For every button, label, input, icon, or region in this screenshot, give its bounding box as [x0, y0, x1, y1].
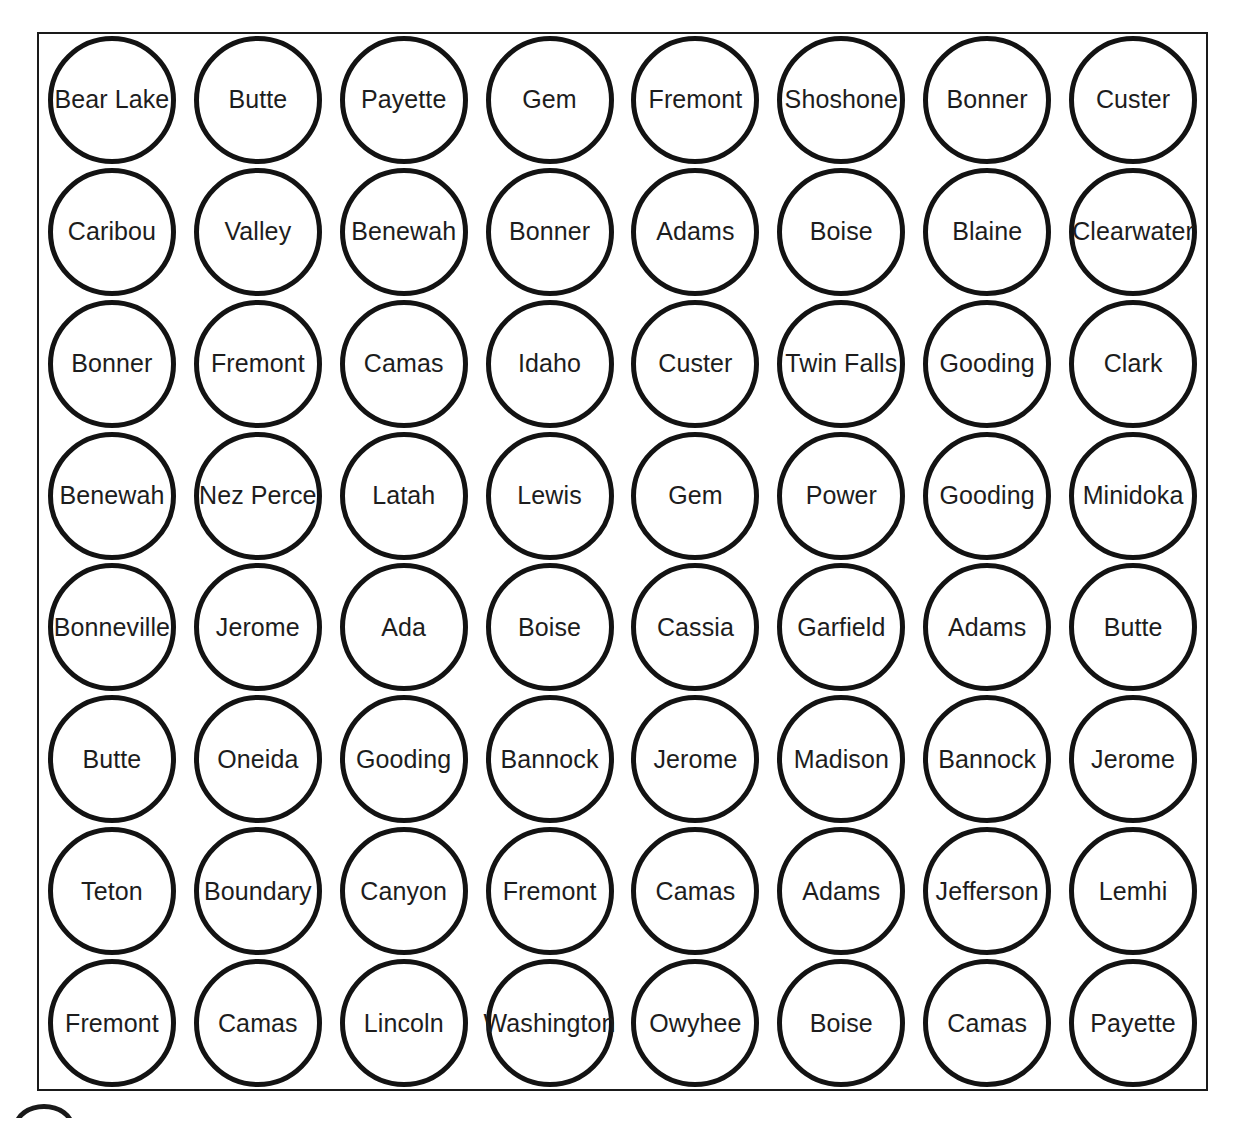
circle-row: CaribouValleyBenewahBonnerAdamsBoiseBlai…: [39, 166, 1206, 298]
circle-label: Boise: [518, 615, 581, 640]
circle-cell[interactable]: Butte: [39, 693, 185, 825]
circle-label: Clark: [1104, 351, 1163, 376]
circle-label: Boise: [810, 219, 873, 244]
circle-row: BenewahNez PerceLatahLewisGemPowerGoodin…: [39, 430, 1206, 562]
circle-label: Blaine: [952, 219, 1022, 244]
circle-cell[interactable]: Oneida: [185, 693, 331, 825]
circle-cell[interactable]: Butte: [1060, 562, 1206, 694]
circle-cell[interactable]: Bannock: [914, 693, 1060, 825]
circle-cell[interactable]: Bannock: [477, 693, 623, 825]
circle-label: Bonner: [509, 219, 590, 244]
circle-cell[interactable]: Twin Falls: [768, 298, 914, 430]
circle-label: Ada: [381, 615, 426, 640]
circle-cell[interactable]: Bonner: [914, 34, 1060, 166]
circle-label: Latah: [372, 483, 435, 508]
circle-label: Fremont: [503, 879, 597, 904]
circle-cell[interactable]: Boundary: [185, 825, 331, 957]
circle-cell[interactable]: Nez Perce: [185, 430, 331, 562]
circle-cell[interactable]: Minidoka: [1060, 430, 1206, 562]
circle-label: Canyon: [360, 879, 447, 904]
circle-row: ButteOneidaGoodingBannockJeromeMadisonBa…: [39, 693, 1206, 825]
circle-cell[interactable]: Bonner: [477, 166, 623, 298]
circle-label: Custer: [1096, 87, 1170, 112]
circle-label: Camas: [364, 351, 444, 376]
circle-label: Bonneville: [54, 615, 170, 640]
circle-cell[interactable]: Jerome: [1060, 693, 1206, 825]
circle-cell[interactable]: Canyon: [331, 825, 477, 957]
circle-label: Garfield: [797, 615, 885, 640]
circle-cell[interactable]: Bonneville: [39, 562, 185, 694]
circle-label: Owyhee: [649, 1011, 741, 1036]
circle-label: Adams: [948, 615, 1026, 640]
circle-cell[interactable]: Shoshone: [768, 34, 914, 166]
circle-label: Bannock: [501, 747, 599, 772]
circle-cell[interactable]: Blaine: [914, 166, 1060, 298]
circle-cell[interactable]: Valley: [185, 166, 331, 298]
circle-cell[interactable]: Adams: [914, 562, 1060, 694]
circle-cell[interactable]: Power: [768, 430, 914, 562]
circle-cell[interactable]: Camas: [185, 957, 331, 1089]
circle-cell[interactable]: Gooding: [914, 430, 1060, 562]
circle-cell[interactable]: Butte: [185, 34, 331, 166]
circle-label: Teton: [81, 879, 143, 904]
circle-label: Payette: [361, 87, 446, 112]
circle-label: Jefferson: [936, 879, 1039, 904]
circle-cell[interactable]: Adams: [623, 166, 769, 298]
circle-cell[interactable]: Madison: [768, 693, 914, 825]
circle-cell[interactable]: Fremont: [623, 34, 769, 166]
circle-cell[interactable]: Custer: [623, 298, 769, 430]
circle-cell[interactable]: Washington: [477, 957, 623, 1089]
circle-cell[interactable]: Boise: [477, 562, 623, 694]
circle-label: Benewah: [59, 483, 164, 508]
circle-row: TetonBoundaryCanyonFremontCamasAdamsJeff…: [39, 825, 1206, 957]
circle-cell[interactable]: Gem: [477, 34, 623, 166]
circle-cell[interactable]: Adams: [768, 825, 914, 957]
circle-cell[interactable]: Bear Lake: [39, 34, 185, 166]
circle-label: Lincoln: [364, 1011, 444, 1036]
circle-cell[interactable]: Fremont: [185, 298, 331, 430]
circle-cell[interactable]: Gooding: [914, 298, 1060, 430]
circle-cell[interactable]: Clark: [1060, 298, 1206, 430]
circle-cell[interactable]: Jerome: [185, 562, 331, 694]
circle-label: Oneida: [217, 747, 298, 772]
circle-cell[interactable]: Custer: [1060, 34, 1206, 166]
circle-cell[interactable]: Cassia: [623, 562, 769, 694]
circle-cell[interactable]: Camas: [331, 298, 477, 430]
circle-cell[interactable]: Fremont: [39, 957, 185, 1089]
circle-label: Twin Falls: [785, 351, 897, 376]
circle-label: Shoshone: [785, 87, 898, 112]
circle-cell[interactable]: Ada: [331, 562, 477, 694]
circle-cell[interactable]: Owyhee: [623, 957, 769, 1089]
circle-cell[interactable]: Gem: [623, 430, 769, 562]
circle-cell[interactable]: Lemhi: [1060, 825, 1206, 957]
circle-cell[interactable]: Camas: [914, 957, 1060, 1089]
circle-cell[interactable]: Bonner: [39, 298, 185, 430]
circle-cell[interactable]: Caribou: [39, 166, 185, 298]
circle-cell[interactable]: Latah: [331, 430, 477, 562]
circle-cell[interactable]: Camas: [623, 825, 769, 957]
circle-cell[interactable]: Clearwater: [1060, 166, 1206, 298]
circle-cell[interactable]: Jefferson: [914, 825, 1060, 957]
circle-cell[interactable]: Lincoln: [331, 957, 477, 1089]
circle-cell[interactable]: Benewah: [331, 166, 477, 298]
circle-cell[interactable]: Teton: [39, 825, 185, 957]
circle-cell[interactable]: Lewis: [477, 430, 623, 562]
circle-cell[interactable]: Idaho: [477, 298, 623, 430]
circle-cell[interactable]: Fremont: [477, 825, 623, 957]
circle-label: Idaho: [518, 351, 581, 376]
circle-cell[interactable]: Boise: [768, 166, 914, 298]
circle-cell[interactable]: Jerome: [623, 693, 769, 825]
circle-label: Nez Perce: [199, 483, 317, 508]
circle-cell[interactable]: Payette: [331, 34, 477, 166]
circle-label: Lewis: [517, 483, 581, 508]
circle-cell[interactable]: Boise: [768, 957, 914, 1089]
circle-cell[interactable]: Gooding: [331, 693, 477, 825]
circle-cell[interactable]: Garfield: [768, 562, 914, 694]
circle-label: Butte: [83, 747, 142, 772]
circle-cell[interactable]: Benewah: [39, 430, 185, 562]
circle-cell[interactable]: Payette: [1060, 957, 1206, 1089]
circle-label: Fremont: [211, 351, 305, 376]
circle-label: Custer: [658, 351, 732, 376]
circle-label: Boise: [810, 1011, 873, 1036]
circle-label: Gooding: [356, 747, 451, 772]
